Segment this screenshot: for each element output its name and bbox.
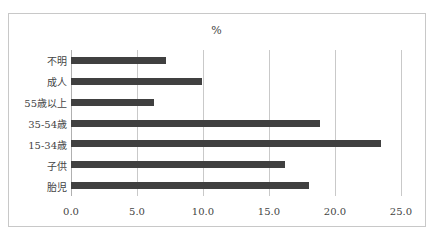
x-tick-label: 25.0 xyxy=(390,206,412,217)
bar xyxy=(71,140,381,147)
bar xyxy=(71,120,320,127)
category-label: 子供 xyxy=(47,157,67,172)
category-label: 35-54歳 xyxy=(28,116,67,131)
category-label: 不明 xyxy=(47,53,67,68)
plot-area xyxy=(71,50,401,196)
bar xyxy=(71,99,154,106)
bar xyxy=(71,182,309,189)
x-tick-label: 10.0 xyxy=(192,206,214,217)
x-tick-label: 0.0 xyxy=(63,206,79,217)
chart-title: % xyxy=(0,24,433,37)
bar xyxy=(71,161,285,168)
gridline xyxy=(401,50,402,196)
category-label: 15-34歳 xyxy=(28,136,67,151)
category-label: 成人 xyxy=(47,74,67,89)
category-label: 55歳以上 xyxy=(24,95,67,110)
bar xyxy=(71,78,202,85)
category-label: 胎児 xyxy=(47,178,67,193)
bar xyxy=(71,57,166,64)
gridline xyxy=(335,50,336,196)
x-tick-label: 20.0 xyxy=(324,206,346,217)
x-tick-label: 5.0 xyxy=(129,206,145,217)
x-tick-label: 15.0 xyxy=(258,206,280,217)
